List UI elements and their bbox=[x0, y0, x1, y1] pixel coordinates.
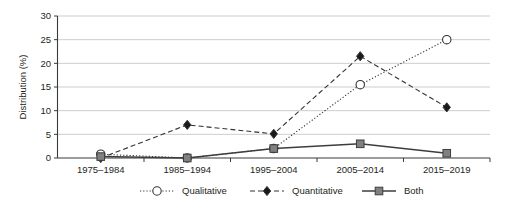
y-tick-label: 0 bbox=[46, 152, 51, 163]
marker-both bbox=[183, 154, 191, 162]
y-tick-label: 20 bbox=[40, 58, 51, 69]
x-category-label: 1985–1994 bbox=[163, 164, 211, 175]
y-axis-title: Distribution (%) bbox=[17, 55, 28, 120]
chart-figure: 051015202530 1975–19841985–19941995–2004… bbox=[0, 0, 508, 210]
y-tick-label: 10 bbox=[40, 105, 51, 116]
x-category-label: 1995–2004 bbox=[250, 164, 298, 175]
marker-quantitative bbox=[270, 129, 277, 138]
marker-quantitative bbox=[357, 52, 364, 61]
y-tick-label: 5 bbox=[46, 129, 51, 140]
legend-label-quantitative: Quantitative bbox=[292, 185, 343, 196]
x-category-label: 2015–2019 bbox=[423, 164, 471, 175]
legend-label-qualitative: Qualitative bbox=[182, 185, 227, 196]
legend-marker-qualitative bbox=[153, 187, 161, 195]
series-line-qualitative bbox=[101, 40, 447, 158]
series-markers bbox=[97, 35, 451, 162]
x-axis-category-labels: 1975–19841985–19941995–20042005–20142015… bbox=[77, 164, 471, 175]
y-tick-label: 15 bbox=[40, 81, 51, 92]
x-category-label: 2005–2014 bbox=[336, 164, 384, 175]
y-axis-title-text: Distribution (%) bbox=[17, 55, 28, 120]
x-category-label: 1975–1984 bbox=[77, 164, 125, 175]
series-lines bbox=[101, 40, 447, 158]
marker-both bbox=[356, 140, 364, 148]
gridlines bbox=[58, 16, 491, 134]
legend-label-both: Both bbox=[404, 185, 424, 196]
marker-both bbox=[443, 149, 451, 157]
y-tick-label: 30 bbox=[40, 10, 51, 21]
legend-marker-both bbox=[375, 187, 383, 195]
series-line-quantitative bbox=[101, 56, 447, 158]
y-axis-tick-labels: 051015202530 bbox=[40, 10, 51, 163]
chart-legend: QualitativeQuantitativeBoth bbox=[140, 185, 424, 196]
marker-qualitative bbox=[443, 35, 451, 43]
marker-quantitative bbox=[184, 120, 191, 129]
line-chart: 051015202530 1975–19841985–19941995–2004… bbox=[0, 0, 508, 210]
y-tick-label: 25 bbox=[40, 34, 51, 45]
marker-both bbox=[97, 153, 105, 161]
legend-marker-quantitative bbox=[263, 186, 270, 195]
marker-both bbox=[270, 145, 278, 153]
marker-qualitative bbox=[356, 80, 364, 88]
x-axis-ticks bbox=[144, 158, 490, 162]
